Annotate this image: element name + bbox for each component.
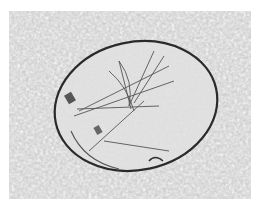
micrograph [9,11,251,199]
micrograph-svg [9,11,251,199]
